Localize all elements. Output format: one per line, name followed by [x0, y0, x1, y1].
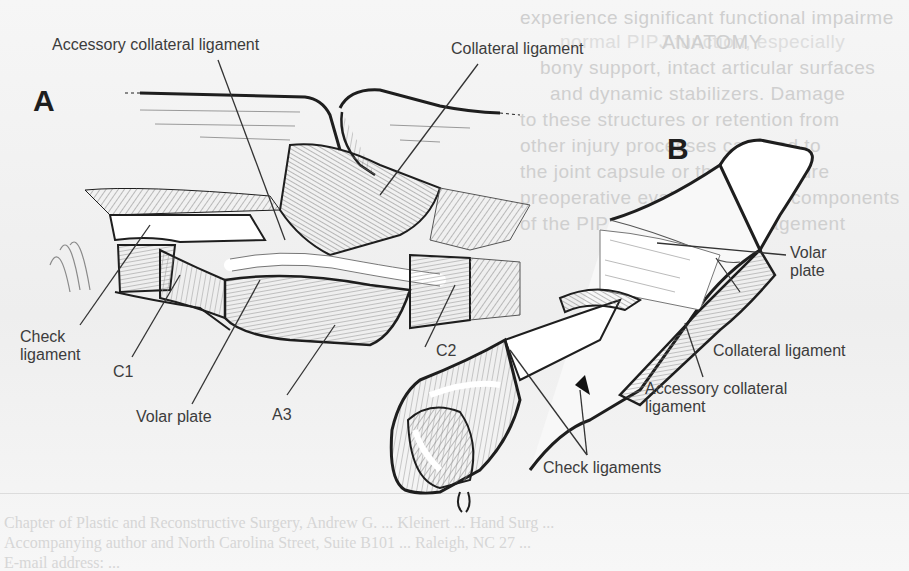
label-c1: C1 — [113, 363, 133, 381]
label-check-ligament-line2: ligament — [20, 346, 80, 364]
label-check-ligaments-b: Check ligaments — [543, 459, 661, 477]
label-c2: C2 — [436, 342, 456, 360]
label-volar-plate-b: Volar plate — [790, 244, 826, 280]
label-collateral-ligament-a: Collateral ligament — [451, 40, 584, 58]
panel-label-a: A — [33, 84, 55, 118]
label-check-ligament-a: Check ligament — [20, 328, 80, 364]
label-accessory-collateral-line2: ligament — [645, 398, 787, 416]
label-a3: A3 — [272, 406, 292, 424]
label-volar-plate-line1: Volar — [790, 244, 826, 262]
label-accessory-collateral-ligament-a: Accessory collateral ligament — [52, 36, 259, 54]
label-accessory-collateral-line1: Accessory collateral — [645, 380, 787, 398]
label-check-ligament-line1: Check — [20, 328, 80, 346]
label-accessory-collateral-ligament-b: Accessory collateral ligament — [645, 380, 787, 416]
label-volar-plate-a: Volar plate — [136, 408, 212, 426]
ligament-illustration — [0, 0, 909, 571]
label-volar-plate-line2: plate — [790, 262, 826, 280]
panel-a-drawing — [50, 90, 530, 345]
label-collateral-ligament-b: Collateral ligament — [713, 342, 846, 360]
panel-label-b: B — [667, 132, 689, 166]
